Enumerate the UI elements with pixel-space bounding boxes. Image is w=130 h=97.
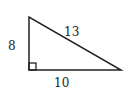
- left-side-label: 8: [8, 40, 16, 52]
- hypotenuse-label: 13: [64, 26, 79, 38]
- bottom-side-label: 10: [54, 77, 69, 89]
- right-angle-marker: [29, 63, 36, 70]
